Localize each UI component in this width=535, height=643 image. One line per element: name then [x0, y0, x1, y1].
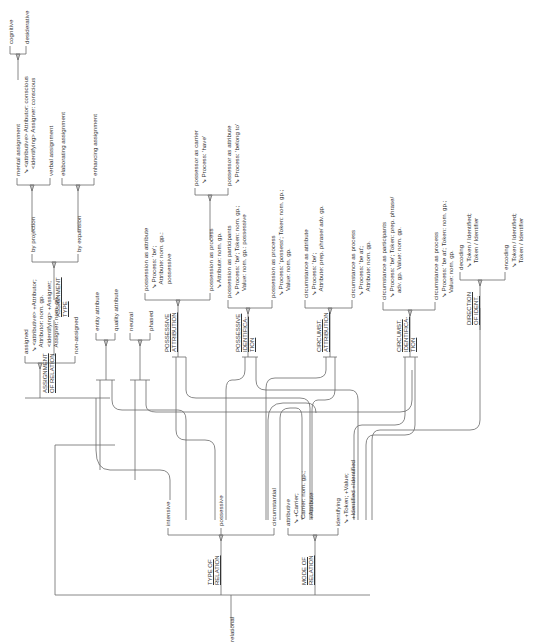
- option-attributive: attributive ↘ +Carrier; Carrier: nom. gp…: [284, 471, 314, 526]
- option-entity-attribute: entity attribute: [93, 292, 101, 331]
- entry-relational: relational: [228, 617, 236, 642]
- option-assigned: assigned ↘ <attributive> +Attributor; At…: [22, 279, 60, 354]
- option-verbal-assignment: verbal assignment: [47, 126, 55, 176]
- option-elaborating-assignment: elaborating assignment: [59, 112, 67, 176]
- option-intensive: intensive: [164, 502, 172, 526]
- option-possession-as-attribute: possession as attribute ↘ Process: 'be';…: [142, 228, 172, 291]
- option-quality-attribute: quality attribute: [112, 289, 120, 331]
- network-connectors: [0, 0, 535, 643]
- option-phased: phased: [147, 311, 155, 331]
- option-non-assigned: non-assigned: [72, 317, 80, 354]
- option-possession-as-process-ident: possession as process ↘ Process: 'posses…: [269, 190, 292, 298]
- system-possessive-attribution: POSSESSIVE ATTRIBUTION: [164, 312, 178, 352]
- system-direction-of-ident: DIRECTION OF IDENT.: [466, 292, 480, 325]
- option-possessor-as-attribute: possessor as attribute ↘ Process: 'belon…: [225, 124, 240, 186]
- option-possession-as-participants: possession as participants ↘ Process: 'b…: [225, 205, 248, 298]
- option-mental-assignment: mental assignment ↘ <attributive> Attrib…: [14, 76, 37, 176]
- option-circumstance-as-process-attr: circumstance as process ↘ Process: 'be a…: [349, 230, 372, 298]
- option-possession-as-process-attr: possession as process ↘ Attribute: nom. …: [207, 228, 222, 291]
- system-circumst-attribution: CIRCUMST. ATTRIBUTION: [316, 312, 330, 352]
- option-circumstance-as-attribute: circumstance as attribute ↘ Process: 'be…: [302, 205, 325, 298]
- system-possessive-identification: POSSESSIVE IDENTIFICA- TION: [235, 314, 256, 352]
- option-circumstance-as-participants: circumstance as participants ↘ Process: …: [380, 197, 403, 300]
- system-network-diagram: relational TYPE OF RELATION MODE OF RELA…: [0, 0, 535, 643]
- system-assignment-of-relation: ASSIGNMENT OF RELATION: [42, 353, 56, 393]
- option-identifying: identifying ↘ +Token; +Value; +Identifie…: [334, 460, 357, 526]
- option-encoding: encoding ↘ Token / Identified; Token / I…: [502, 213, 525, 270]
- option-desiderative: desiderative: [23, 11, 31, 44]
- option-by-expansion: by expansion: [75, 216, 83, 252]
- system-mode-of-relation: MODE OF RELATION: [301, 555, 315, 585]
- option-circumstantial: circumstantial: [270, 488, 278, 526]
- system-type-of-relation: TYPE OF RELATION: [207, 555, 221, 585]
- option-decoding: decoding ↘ Token / Identified; Token / I…: [457, 213, 480, 270]
- option-possessive: possessive: [217, 495, 225, 526]
- option-cognitive: cognitive: [7, 20, 15, 44]
- option-possessor-as-carrier: possessor as carrier ↘ Process: 'have': [192, 130, 207, 186]
- option-by-projection: by projection: [29, 217, 37, 252]
- option-enhancing-assignment: enhancing assignment: [91, 114, 99, 176]
- option-neutral: neutral: [127, 312, 135, 331]
- system-circumst-identification: CIRCUMST. IDENTIFICA- TION: [396, 317, 417, 352]
- option-circumstance-as-process-ident: circumstance as process ↘ Process: 'be a…: [432, 201, 455, 300]
